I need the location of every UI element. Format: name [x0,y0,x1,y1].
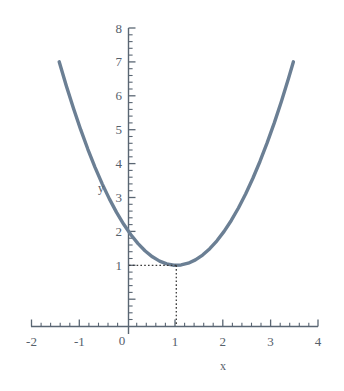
x-axis-label: x [220,359,226,373]
y-tick-label-8: 8 [116,21,123,36]
y-tick-label-5: 5 [116,122,123,137]
x-tick-label-4: 4 [315,334,322,349]
parabola-chart: -2 -1 0 1 2 3 4 8 7 6 5 4 3 2 1 y x [0,0,344,391]
x-axis-major-ticks [32,320,319,327]
y-axis-label: y [98,181,104,195]
chart-canvas: -2 -1 0 1 2 3 4 8 7 6 5 4 3 2 1 y x [0,0,344,391]
parabola-curve [59,62,293,265]
y-tick-label-4: 4 [116,156,123,171]
y-tick-label-1: 1 [116,258,123,273]
y-tick-label-7: 7 [116,54,123,69]
y-tick-label-6: 6 [116,88,123,103]
x-tick-label-3: 3 [267,334,274,349]
x-tick-label--1: -1 [74,334,85,349]
x-tick-label--2: -2 [26,334,37,349]
y-tick-label-3: 3 [116,190,123,205]
y-tick-label-2: 2 [116,224,123,239]
x-tick-label-0: 0 [119,333,126,348]
x-tick-label-1: 1 [172,334,179,349]
x-tick-label-2: 2 [220,334,227,349]
